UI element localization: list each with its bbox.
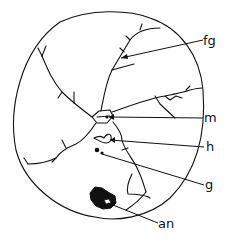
- an-blob: [90, 187, 116, 209]
- g-dot-1: [95, 148, 100, 153]
- vessel-upper-left: [42, 56, 92, 117]
- leader-an: [108, 203, 158, 223]
- h-structure: [94, 134, 111, 143]
- vessel-lower-right: [113, 122, 146, 192]
- label-g: g: [205, 178, 213, 191]
- vessel-left-lower: [28, 123, 96, 164]
- label-fg: fg: [203, 34, 216, 47]
- leader-m: [109, 117, 203, 118]
- m-dot: [105, 115, 108, 118]
- specimen-diagram: [0, 0, 234, 247]
- body-outline: [14, 12, 204, 219]
- leader-g: [102, 154, 204, 185]
- leader-fg: [121, 40, 203, 58]
- label-h: h: [206, 140, 214, 153]
- label-m: m: [204, 111, 217, 124]
- label-an: an: [158, 217, 174, 230]
